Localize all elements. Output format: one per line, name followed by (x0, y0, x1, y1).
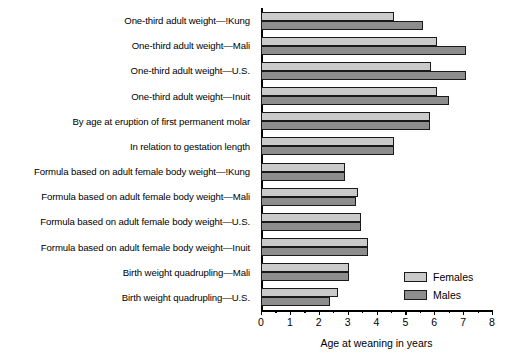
bar-group (261, 209, 492, 234)
x-tick-label: 7 (460, 316, 466, 328)
x-tick-label: 2 (316, 316, 322, 328)
bar-males (261, 197, 356, 206)
x-tick (434, 310, 435, 315)
chart-legend: Females Males (404, 270, 496, 306)
category-label-text: Formula based on adult female body weigh… (41, 191, 250, 202)
bar-females (261, 112, 430, 121)
weaning-age-bar-chart: One-third adult weight—!KungOne-third ad… (0, 0, 505, 357)
bar-females (261, 12, 394, 21)
category-label-text: Formula based on adult female body weigh… (40, 216, 250, 227)
x-tick-label: 8 (489, 316, 495, 328)
bar-group (261, 84, 492, 109)
bar-females (261, 163, 345, 172)
x-tick (463, 310, 464, 315)
category-label: One-third adult weight—Mali (0, 33, 256, 58)
x-tick-minor (478, 310, 479, 313)
category-label: Formula based on adult female body weigh… (0, 184, 256, 209)
x-tick (377, 310, 378, 315)
bar-groups (261, 8, 492, 310)
bar-group (261, 184, 492, 209)
x-tick-label: 4 (374, 316, 380, 328)
legend-label-females: Females (433, 271, 473, 283)
bar-females (261, 87, 437, 96)
bar-males (261, 297, 330, 306)
category-label: Birth weight quadrupling—U.S. (0, 285, 256, 310)
plot-area: 012345678 (261, 8, 492, 310)
x-tick-minor (275, 310, 276, 313)
category-label: Birth weight quadrupling—Mali (0, 260, 256, 285)
legend-item-females: Females (404, 270, 496, 283)
x-tick-label: 0 (258, 316, 264, 328)
bar-females (261, 213, 361, 222)
legend-swatch-females (404, 272, 427, 282)
category-label: One-third adult weight—!Kung (0, 8, 256, 33)
x-tick-label: 3 (345, 316, 351, 328)
x-tick (261, 310, 262, 315)
bar-group (261, 58, 492, 83)
legend-label-males: Males (433, 289, 461, 301)
x-tick (290, 310, 291, 315)
bar-females (261, 137, 394, 146)
x-tick-label: 5 (402, 316, 408, 328)
bar-group (261, 33, 492, 58)
bar-females (261, 238, 368, 247)
category-label: One-third adult weight—Inuit (0, 84, 256, 109)
bar-females (261, 288, 338, 297)
bar-females (261, 37, 437, 46)
category-label-text: Formula based on adult female body weigh… (41, 242, 250, 253)
bar-males (261, 146, 394, 155)
category-label-text: One-third adult weight—Inuit (131, 91, 250, 102)
category-label: Formula based on adult female body weigh… (0, 235, 256, 260)
x-axis-label: Age at weaning in years (261, 337, 492, 349)
x-tick-minor (333, 310, 334, 313)
bar-females (261, 62, 431, 71)
category-label-text: One-third adult weight—U.S. (131, 65, 250, 76)
x-tick-label: 6 (431, 316, 437, 328)
category-label-text: One-third adult weight—Mali (132, 40, 250, 51)
bar-males (261, 172, 345, 181)
bar-group (261, 8, 492, 33)
x-tick (405, 310, 406, 315)
x-tick (492, 310, 493, 315)
category-label-text: Birth weight quadrupling—U.S. (122, 292, 250, 303)
bar-males (261, 121, 430, 130)
x-tick-minor (362, 310, 363, 313)
category-label-text: In relation to gestation length (130, 141, 250, 152)
x-tick-minor (391, 310, 392, 313)
bar-females (261, 188, 358, 197)
category-label-column: One-third adult weight—!KungOne-third ad… (0, 8, 256, 310)
bar-males (261, 96, 449, 105)
category-label: Formula based on adult female body weigh… (0, 159, 256, 184)
bar-males (261, 46, 466, 55)
category-label: In relation to gestation length (0, 134, 256, 159)
category-label-text: Birth weight quadrupling—Mali (123, 267, 250, 278)
x-tick (319, 310, 320, 315)
category-label-text: One-third adult weight—!Kung (124, 15, 250, 26)
legend-item-males: Males (404, 288, 496, 301)
x-tick (348, 310, 349, 315)
bar-group (261, 235, 492, 260)
x-tick-minor (304, 310, 305, 313)
bar-group (261, 134, 492, 159)
x-tick-minor (420, 310, 421, 313)
legend-swatch-males (404, 290, 427, 300)
bar-males (261, 222, 361, 231)
bar-group (261, 109, 492, 134)
bar-males (261, 71, 466, 80)
x-tick-label: 1 (287, 316, 293, 328)
bar-group (261, 159, 492, 184)
category-label-text: By age at eruption of first permanent mo… (72, 116, 250, 127)
category-label: One-third adult weight—U.S. (0, 58, 256, 83)
x-tick-minor (449, 310, 450, 313)
bar-females (261, 263, 349, 272)
category-label: By age at eruption of first permanent mo… (0, 109, 256, 134)
category-label-text: Formula based on adult female body weigh… (34, 166, 250, 177)
bar-males (261, 272, 349, 281)
bar-males (261, 21, 423, 30)
category-label: Formula based on adult female body weigh… (0, 209, 256, 234)
bar-males (261, 247, 368, 256)
